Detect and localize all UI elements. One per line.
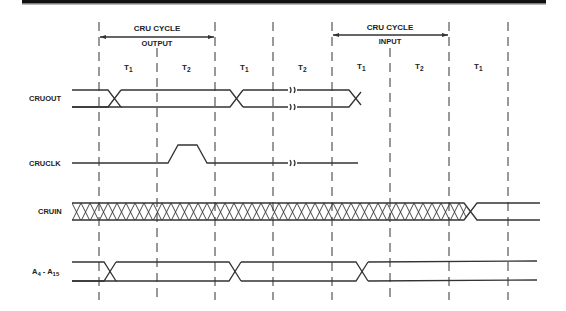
- cru-cycle-input-title: CRU CYCLE: [367, 23, 414, 32]
- signal-label-address: A4 - A15: [32, 267, 60, 277]
- phase-label: T1: [240, 63, 249, 73]
- cruout-waveform: [72, 87, 361, 110]
- signal-label-cruclk: CRUCLK: [29, 159, 61, 168]
- timing-diagram: CRU CYCLE OUTPUT CRU CYCLE INPUT T1 T2 T…: [0, 0, 566, 311]
- signal-label-cruout: CRUOUT: [29, 94, 61, 103]
- cru-cycle-output-annotation: CRU CYCLE OUTPUT: [100, 24, 214, 48]
- top-border-bar: [22, 0, 546, 4]
- phase-label: T2: [298, 63, 307, 73]
- phase-label: T1: [474, 62, 483, 72]
- cru-cycle-input-annotation: CRU CYCLE INPUT: [333, 23, 448, 46]
- cru-cycle-output-subtitle: OUTPUT: [142, 39, 173, 48]
- address-waveform: [72, 261, 537, 281]
- clock-gridlines: [99, 22, 508, 300]
- cru-cycle-input-subtitle: INPUT: [379, 37, 402, 46]
- phase-label: T1: [357, 62, 366, 72]
- signal-label-cruin: CRUIN: [38, 207, 62, 216]
- phase-label: T2: [415, 62, 424, 72]
- phase-label: T1: [124, 63, 133, 73]
- phase-label: T2: [182, 63, 191, 73]
- phase-labels: T1 T2 T1 T2 T1 T2 T1: [124, 62, 483, 73]
- cruin-waveform: [72, 203, 540, 220]
- cru-cycle-output-title: CRU CYCLE: [134, 24, 181, 33]
